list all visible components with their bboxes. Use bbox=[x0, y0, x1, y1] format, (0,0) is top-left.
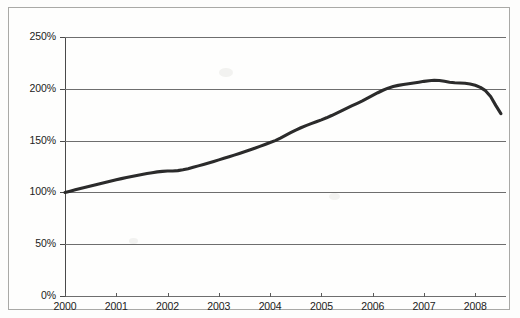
y-tick-label: 150% bbox=[30, 134, 56, 146]
x-tick-label: 2000 bbox=[43, 300, 87, 312]
series-line-layer bbox=[65, 37, 506, 296]
y-tick-label: 100% bbox=[30, 185, 56, 197]
x-tick-label: 2003 bbox=[197, 300, 241, 312]
x-tick-label: 2002 bbox=[146, 300, 190, 312]
y-tick-label: 250% bbox=[30, 30, 56, 42]
chart-figure: 0%50%100%150%200%250% 200020012002200320… bbox=[0, 0, 520, 318]
y-tick-label: 200% bbox=[30, 82, 56, 94]
x-tick-label: 2001 bbox=[94, 300, 138, 312]
chart-frame: 0%50%100%150%200%250% 200020012002200320… bbox=[8, 7, 510, 310]
x-tick-label: 2005 bbox=[299, 300, 343, 312]
x-tick-label: 2008 bbox=[453, 300, 497, 312]
x-tick-label: 2006 bbox=[351, 300, 395, 312]
y-tick-label: 50% bbox=[35, 237, 56, 249]
x-tick-label: 2004 bbox=[248, 300, 292, 312]
x-tick-label: 2007 bbox=[402, 300, 446, 312]
gridline-y bbox=[65, 296, 506, 297]
series-line-index bbox=[65, 80, 501, 192]
plot-area: 0%50%100%150%200%250% 200020012002200320… bbox=[65, 37, 506, 296]
